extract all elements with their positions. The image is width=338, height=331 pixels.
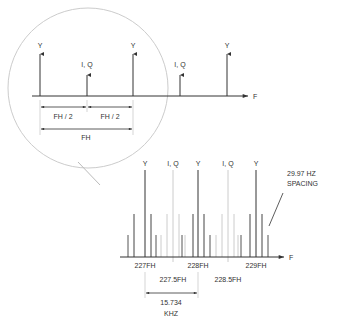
lower-y-label-1: Y: [143, 160, 148, 167]
callout-line: [78, 162, 100, 185]
upper-y-label-2: Y: [131, 42, 136, 49]
upper-y-label-3: Y: [225, 42, 230, 49]
upper-spectrum: F Y I, Q Y I, Q Y FH / 2 FH / 2 FH: [32, 42, 257, 141]
spacing-note-line1: 29.97 HZ: [287, 170, 317, 177]
tick-label-228-5fh: 228.5FH: [215, 276, 242, 283]
spectrum-diagram: F Y I, Q Y I, Q Y FH / 2 FH / 2 FH: [0, 0, 338, 331]
lower-y-label-2: Y: [196, 160, 201, 167]
khz-dim-unit: KHZ: [164, 310, 179, 317]
upper-y-label-1: Y: [38, 42, 43, 49]
spacing-note-line2: SPACING: [287, 180, 318, 187]
lower-y-label-3: Y: [254, 160, 259, 167]
tick-label-227-5fh: 227.5FH: [160, 276, 187, 283]
spacing-leader-line: [269, 193, 283, 226]
lower-iq-label-2: I, Q: [222, 160, 234, 168]
dim-half-right-label: FH / 2: [100, 113, 119, 120]
lower-spectrum: Y I, Q Y I, Q Y F 227FH 228FH 229FH 227.…: [120, 160, 318, 317]
upper-axis-label: F: [253, 93, 257, 100]
magnifier-circle: [8, 8, 168, 168]
upper-iq-label-2: I, Q: [174, 61, 186, 69]
dim-full-label: FH: [81, 134, 90, 141]
tick-label-227fh: 227FH: [134, 262, 155, 269]
tick-label-229fh: 229FH: [245, 262, 266, 269]
tick-label-228fh: 228FH: [187, 262, 208, 269]
upper-iq-label-1: I, Q: [81, 61, 93, 69]
lower-axis-label: F: [289, 254, 293, 261]
lower-iq-label-1: I, Q: [167, 160, 179, 168]
khz-dim-value: 15.734: [160, 299, 182, 306]
dim-half-left-label: FH / 2: [53, 113, 72, 120]
